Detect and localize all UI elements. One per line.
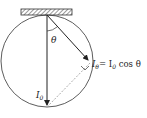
ceiling-support	[21, 9, 72, 15]
angle-label: θ	[51, 35, 57, 45]
angle-arc	[47, 27, 57, 31]
dashed-line	[48, 63, 90, 106]
vertical-label: I0	[35, 90, 44, 101]
equation-label: Iθ= I0 cos θ	[91, 59, 141, 70]
pendulum-diagram: θ I0 Iθ= I0 cos θ	[0, 0, 147, 118]
